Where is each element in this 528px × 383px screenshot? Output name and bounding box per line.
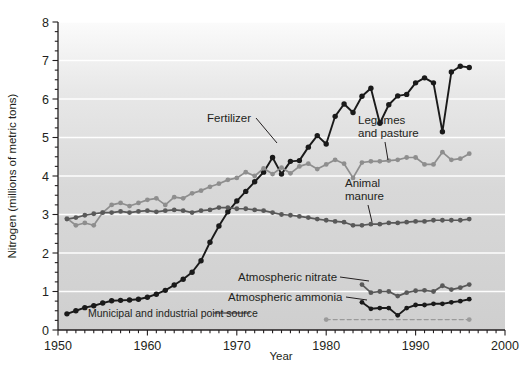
x-tick-label: 1990	[402, 339, 430, 353]
y-axis-title: Nitrogen (millions of metric tons)	[6, 93, 18, 258]
x-axis-title: Year	[269, 350, 292, 362]
series-annotation: Atmospheric ammonia	[228, 291, 343, 303]
series-annotation: Animal	[345, 177, 380, 189]
x-tick-label: 2000	[491, 339, 519, 353]
series-annotation: Atmospheric nitrate	[238, 271, 337, 283]
nitrogen-sources-line-chart: 012345678195019601970198019902000 Fertil…	[0, 0, 528, 383]
series-annotation: Fertilizer	[207, 112, 251, 124]
y-tick-label: 3	[42, 208, 49, 222]
x-tick-label: 1980	[312, 339, 340, 353]
series-annotation: manure	[345, 190, 384, 202]
y-tick-label: 4	[42, 170, 49, 184]
y-tick-label: 6	[42, 93, 49, 107]
y-tick-label: 0	[42, 324, 49, 338]
y-tick-label: 7	[42, 54, 49, 68]
y-tick-label: 2	[42, 247, 49, 261]
series-annotation: and pasture	[358, 127, 419, 139]
x-tick-label: 1970	[223, 339, 251, 353]
chart-canvas: 012345678195019601970198019902000 Fertil…	[0, 0, 528, 383]
x-tick-label: 1950	[44, 339, 72, 353]
y-tick-label: 1	[42, 285, 49, 299]
y-tick-label: 5	[42, 131, 49, 145]
series-annotation: Municipal and industrial point source	[88, 307, 258, 319]
x-tick-label: 1960	[133, 339, 161, 353]
series-annotation: Legumes	[358, 114, 406, 126]
y-tick-label: 8	[42, 16, 49, 30]
